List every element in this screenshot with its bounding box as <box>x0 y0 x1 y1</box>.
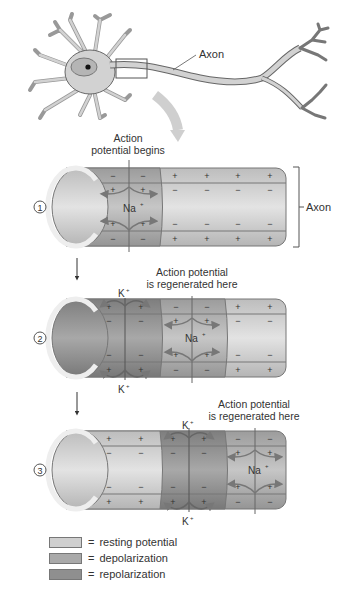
legend-item-depolarization: = depolarization <box>49 550 177 566</box>
svg-text:+: + <box>172 234 177 244</box>
svg-text:−: − <box>235 497 240 507</box>
svg-text:+: + <box>204 171 209 181</box>
svg-text:−: − <box>201 482 206 492</box>
svg-text:+: + <box>170 497 175 507</box>
svg-text:+: + <box>172 171 177 181</box>
svg-text:is regenerated here: is regenerated here <box>146 278 237 290</box>
svg-text:+: + <box>201 497 206 507</box>
svg-text:+: + <box>235 365 240 375</box>
zoom-arrow <box>155 95 178 130</box>
svg-text:K: K <box>182 420 189 431</box>
svg-text:−: − <box>267 350 272 360</box>
svg-text:+: + <box>235 234 240 244</box>
stage-number: 1 <box>37 203 42 213</box>
svg-text:Action potential: Action potential <box>156 266 228 278</box>
svg-text:−: − <box>267 185 272 195</box>
svg-text:Na: Na <box>185 333 198 344</box>
svg-text:−: − <box>140 171 145 181</box>
svg-text:−: − <box>110 234 115 244</box>
svg-text:K: K <box>182 516 189 527</box>
svg-text:+: + <box>138 497 143 507</box>
svg-text:−: − <box>267 316 272 326</box>
svg-text:potential begins: potential begins <box>91 144 165 156</box>
svg-text:Axon: Axon <box>306 201 331 213</box>
svg-text:−: − <box>204 365 209 375</box>
svg-text:+: + <box>126 287 130 293</box>
svg-text:+: + <box>170 434 175 444</box>
svg-text:−: − <box>235 316 240 326</box>
swatch-repolarization <box>49 569 82 580</box>
svg-text:K: K <box>118 288 125 299</box>
svg-text:+: + <box>126 383 130 389</box>
svg-text:−: − <box>106 482 111 492</box>
svg-text:−: − <box>170 448 175 458</box>
svg-text:−: − <box>110 171 115 181</box>
stage-3: Action potential is regenerated here +++… <box>34 398 300 527</box>
svg-text:+: + <box>106 365 111 375</box>
svg-text:−: − <box>172 185 177 195</box>
svg-text:is regenerated here: is regenerated here <box>208 410 299 422</box>
svg-text:Action: Action <box>113 132 142 144</box>
svg-text:−: − <box>138 448 143 458</box>
svg-text:−: − <box>235 219 240 229</box>
svg-text:−: − <box>172 219 177 229</box>
svg-text:Na: Na <box>123 203 136 214</box>
svg-text:+: + <box>235 171 240 181</box>
svg-text:−: − <box>106 350 111 360</box>
svg-text:+: + <box>106 302 111 312</box>
svg-text:+: + <box>138 434 143 444</box>
svg-text:+: + <box>265 463 269 469</box>
svg-text:−: − <box>204 302 209 312</box>
svg-text:+: + <box>106 497 111 507</box>
svg-text:+: + <box>267 365 272 375</box>
legend: = resting potential = depolarization = r… <box>49 534 177 582</box>
svg-text:−: − <box>140 234 145 244</box>
svg-text:−: − <box>106 316 111 326</box>
svg-text:−: − <box>235 350 240 360</box>
axon-label: Axon <box>199 48 224 60</box>
svg-text:−: − <box>267 219 272 229</box>
svg-text:K: K <box>118 384 125 395</box>
svg-text:+: + <box>138 302 143 312</box>
svg-text:−: − <box>204 185 209 195</box>
svg-text:+: + <box>138 365 143 375</box>
svg-text:Action potential: Action potential <box>218 398 290 410</box>
svg-text:−: − <box>138 316 143 326</box>
swatch-resting <box>49 537 82 548</box>
svg-text:+: + <box>267 171 272 181</box>
svg-text:−: − <box>170 482 175 492</box>
svg-text:−: − <box>201 448 206 458</box>
swatch-depolarization <box>49 553 82 564</box>
svg-text:+: + <box>106 434 111 444</box>
svg-text:+: + <box>201 434 206 444</box>
svg-text:+: + <box>235 302 240 312</box>
svg-text:−: − <box>138 350 143 360</box>
legend-item-resting: = resting potential <box>49 534 177 550</box>
stage-number: 2 <box>37 334 42 344</box>
svg-text:+: + <box>267 302 272 312</box>
svg-text:−: − <box>235 185 240 195</box>
svg-text:−: − <box>106 448 111 458</box>
svg-text:+: + <box>204 234 209 244</box>
svg-text:+: + <box>267 234 272 244</box>
legend-label: repolarization <box>99 568 165 580</box>
stage-2: Action potential is regenerated here ++−… <box>34 266 286 395</box>
svg-text:−: − <box>267 434 272 444</box>
stage-1: Action potential begins −− ++++ ++ −−−− … <box>34 132 331 252</box>
svg-text:+: + <box>140 219 145 229</box>
svg-text:−: − <box>173 302 178 312</box>
stage-number: 3 <box>37 466 42 476</box>
svg-text:+: + <box>190 515 194 521</box>
svg-text:+: + <box>202 331 206 337</box>
legend-item-repolarization: = repolarization <box>49 566 177 582</box>
svg-text:−: − <box>173 365 178 375</box>
action-potential-diagram: Axon Action potential begins −− ++++ ++ … <box>0 0 359 589</box>
svg-text:+: + <box>190 419 194 425</box>
svg-text:−: − <box>235 434 240 444</box>
svg-text:+: + <box>140 201 144 207</box>
svg-text:Na: Na <box>248 465 261 476</box>
svg-text:−: − <box>138 482 143 492</box>
legend-label: resting potential <box>99 536 177 548</box>
svg-text:−: − <box>204 219 209 229</box>
legend-label: depolarization <box>99 552 168 564</box>
